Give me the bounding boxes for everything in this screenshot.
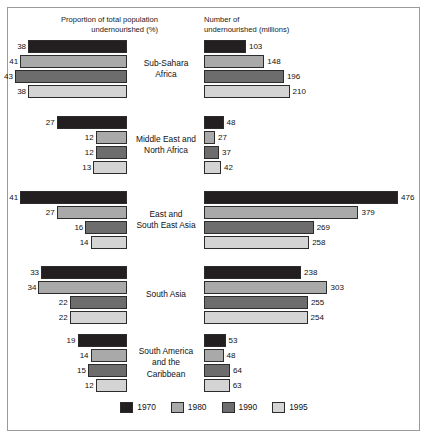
chart-plot-area: Sub-Sahara Africa38103411484319638210Mid…	[0, 0, 428, 442]
chart-row: 16269	[0, 221, 428, 234]
bar-number	[204, 55, 264, 68]
chart-legend: 1970198019901995	[0, 402, 428, 413]
chart-group: Sub-Sahara Africa38103411484319638210	[0, 40, 428, 98]
bar-number	[204, 334, 226, 347]
bar-number	[204, 131, 215, 144]
bar-value-number: 258	[312, 237, 325, 248]
chart-row: 38210	[0, 85, 428, 98]
bar-value-number: 148	[267, 56, 280, 67]
bar-value-proportion: 12	[85, 147, 94, 158]
legend-label: 1990	[239, 402, 258, 413]
bar-proportion	[96, 146, 127, 159]
bar-value-number: 48	[227, 350, 236, 361]
bar-value-number: 103	[249, 41, 262, 52]
legend-label: 1970	[137, 402, 156, 413]
bar-proportion	[28, 40, 127, 53]
chart-row: 1953	[0, 334, 428, 347]
bar-number	[204, 349, 224, 362]
legend-swatch	[171, 402, 184, 413]
bar-proportion	[70, 296, 127, 309]
chart-row: 22254	[0, 311, 428, 324]
legend-label: 1995	[289, 402, 308, 413]
chart-row: 14258	[0, 236, 428, 249]
chart-row: 1342	[0, 161, 428, 174]
chart-row: 1227	[0, 131, 428, 144]
bar-value-number: 37	[222, 147, 231, 158]
chart-row: 34303	[0, 281, 428, 294]
chart-group: South Asia33238343032225522254	[0, 266, 428, 324]
bar-value-number: 210	[293, 86, 306, 97]
bar-value-proportion: 41	[9, 56, 18, 67]
bar-value-number: 254	[311, 312, 324, 323]
bar-proportion	[41, 266, 127, 279]
bar-number	[204, 379, 230, 392]
bar-value-number: 476	[401, 192, 414, 203]
bar-number	[204, 364, 230, 377]
bar-value-number: 27	[218, 132, 227, 143]
bar-proportion	[20, 191, 127, 204]
bar-number	[204, 161, 221, 174]
bar-value-proportion: 12	[85, 380, 94, 391]
chart-row: 38103	[0, 40, 428, 53]
bar-number	[204, 146, 219, 159]
chart-group: South America and the Caribbean195314481…	[0, 334, 428, 392]
chart-row: 2748	[0, 116, 428, 129]
bar-value-proportion: 22	[59, 297, 68, 308]
bar-value-number: 64	[233, 365, 242, 376]
bar-number	[204, 236, 309, 249]
bar-number	[204, 116, 224, 129]
bar-number	[204, 266, 301, 279]
legend-item: 1990	[222, 402, 258, 413]
bar-value-number: 269	[317, 222, 330, 233]
bar-proportion	[57, 116, 127, 129]
bar-number	[204, 296, 308, 309]
bar-number	[204, 311, 308, 324]
bar-proportion	[57, 206, 127, 219]
legend-item: 1995	[272, 402, 308, 413]
bar-value-proportion: 14	[80, 237, 89, 248]
bar-proportion	[93, 161, 127, 174]
bar-value-proportion: 12	[85, 132, 94, 143]
bar-proportion	[88, 364, 127, 377]
bar-value-proportion: 13	[82, 162, 91, 173]
bar-value-number: 238	[304, 267, 317, 278]
bar-value-proportion: 27	[46, 117, 55, 128]
bar-value-number: 63	[233, 380, 242, 391]
bar-number	[204, 191, 398, 204]
bar-value-proportion: 43	[4, 71, 13, 82]
bar-value-proportion: 41	[9, 192, 18, 203]
chart-row: 41148	[0, 55, 428, 68]
bar-value-number: 196	[287, 71, 300, 82]
bar-value-proportion: 27	[46, 207, 55, 218]
chart-row: 43196	[0, 70, 428, 83]
bar-number	[204, 281, 327, 294]
bar-proportion	[91, 236, 127, 249]
bar-proportion	[78, 334, 127, 347]
bar-value-proportion: 14	[80, 350, 89, 361]
bar-proportion	[28, 85, 127, 98]
bar-number	[204, 221, 314, 234]
legend-item: 1970	[120, 402, 156, 413]
legend-swatch	[120, 402, 133, 413]
bar-value-proportion: 38	[17, 86, 26, 97]
bar-proportion	[15, 70, 127, 83]
chart-row: 27379	[0, 206, 428, 219]
bar-proportion	[85, 221, 127, 234]
chart-row: 1448	[0, 349, 428, 362]
chart-row: 33238	[0, 266, 428, 279]
undernourishment-chart-figure: Proportion of total population undernour…	[0, 0, 428, 442]
chart-row: 1564	[0, 364, 428, 377]
bar-value-number: 255	[311, 297, 324, 308]
bar-number	[204, 85, 290, 98]
bar-number	[204, 206, 358, 219]
bar-value-proportion: 15	[77, 365, 86, 376]
bar-value-proportion: 38	[17, 41, 26, 52]
bar-proportion	[38, 281, 127, 294]
bar-number	[204, 40, 246, 53]
legend-label: 1980	[188, 402, 207, 413]
chart-row: 1263	[0, 379, 428, 392]
bar-value-proportion: 19	[67, 335, 76, 346]
bar-value-number: 379	[361, 207, 374, 218]
chart-group: East and South East Asia4147627379162691…	[0, 191, 428, 249]
chart-row: 22255	[0, 296, 428, 309]
